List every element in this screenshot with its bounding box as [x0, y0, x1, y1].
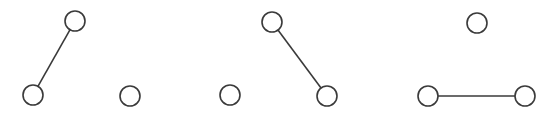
graph-3 [418, 13, 535, 106]
node-bottom-right [317, 86, 337, 106]
node-top [262, 12, 282, 32]
graph-2 [220, 12, 337, 106]
node-top [65, 11, 85, 31]
edge-top-bottom-right [278, 30, 321, 88]
node-bottom-right [120, 86, 140, 106]
graph-diagram [0, 0, 549, 120]
node-bottom-left [23, 85, 43, 105]
node-bottom-right [515, 86, 535, 106]
node-top [467, 13, 487, 33]
edge-top-bottom-left [38, 30, 70, 87]
node-bottom-left [418, 86, 438, 106]
node-bottom-left [220, 85, 240, 105]
graph-1 [23, 11, 140, 106]
